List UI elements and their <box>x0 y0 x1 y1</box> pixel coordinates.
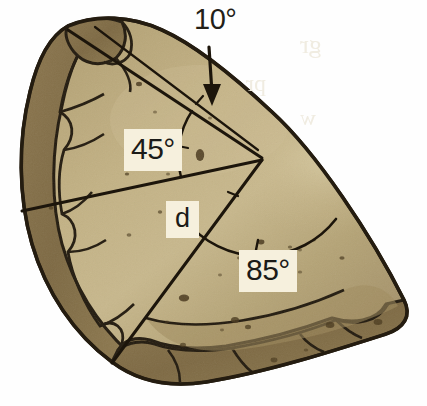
label-angle-10-degrees: 10° <box>194 3 236 36</box>
label-angle-45-degrees: 45° <box>124 129 182 171</box>
label-distance-d: d <box>166 201 199 238</box>
rock-diagram-svg <box>0 0 427 406</box>
label-angle-85-degrees: 85° <box>239 250 297 292</box>
figure-canvas: gr pr w 10° 45° d 85° <box>0 0 427 406</box>
